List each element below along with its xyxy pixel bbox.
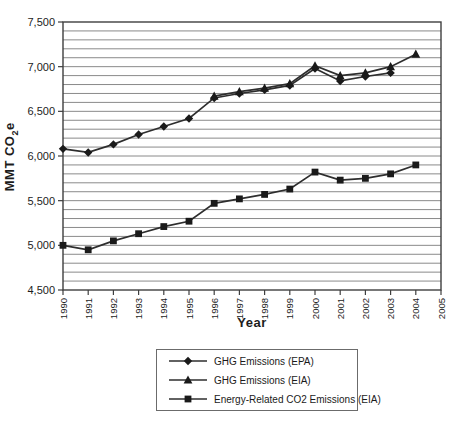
triangle-marker-icon [169,374,207,386]
svg-text:6,000: 6,000 [27,150,55,162]
x-axis-title: Year [63,315,441,330]
legend-box: GHG Emissions (EPA) GHG Emissions (EIA) … [156,349,358,411]
y-axis-title: MMT CO2e [2,92,20,222]
square-marker-icon [169,393,207,405]
diamond-marker-icon [169,355,207,367]
svg-text:7,500: 7,500 [27,16,55,28]
svg-text:6,500: 6,500 [27,105,55,117]
legend-item-eia-ghg: GHG Emissions (EIA) [169,372,357,388]
legend-item-epa-ghg: GHG Emissions (EPA) [169,353,357,369]
chart-plot-area: 7,5007,0006,5006,0005,5005,0004,50019901… [0,0,463,340]
legend-label: Energy-Related CO2 Emissions (EIA) [214,394,381,405]
svg-text:7,000: 7,000 [27,61,55,73]
svg-text:5,000: 5,000 [27,239,55,251]
svg-text:5,500: 5,500 [27,195,55,207]
y-axis-title-subscript: 2 [10,130,20,136]
svg-text:4,500: 4,500 [27,284,55,296]
y-axis-title-end: e [2,122,17,130]
legend-label: GHG Emissions (EPA) [214,356,314,367]
legend-label: GHG Emissions (EIA) [214,375,311,386]
legend-item-eia-co2: Energy-Related CO2 Emissions (EIA) [169,391,357,407]
y-axis-title-main: MMT CO [2,136,17,192]
emissions-chart-figure: 7,5007,0006,5006,0005,5005,0004,50019901… [0,0,463,422]
